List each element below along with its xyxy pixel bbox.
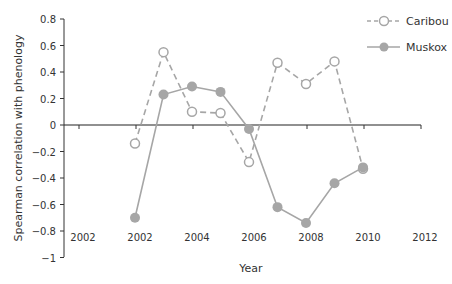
x-axis [64,125,421,129]
x-tick-label: 2006 [241,232,266,243]
y-tick-label: −0.8 [32,226,56,237]
data-point [159,90,169,100]
x-tick-label: 2004 [184,232,209,243]
legend-item-muskox: Muskox [367,41,448,54]
x-tick-label: 2008 [298,232,323,243]
y-tick-label: −0.4 [32,173,56,184]
data-point [330,178,340,188]
data-point [244,124,254,134]
series-muskox [130,82,368,228]
data-point [216,87,226,97]
y-axis-label: Spearman correlation with phenology [12,34,25,241]
filled-circle-marker-icon [380,43,389,52]
y-tick-label: −0.2 [32,147,56,158]
legend-item-caribou: Caribou [367,15,449,28]
x-tick-label: 2002 [127,232,152,243]
data-point [273,202,283,212]
legend-label-caribou: Caribou [406,15,449,28]
legend: Caribou Muskox [367,15,449,54]
data-point [159,48,168,57]
y-tick-label: 0 [50,120,56,131]
data-point [358,162,368,172]
plot-area [130,48,368,228]
data-point [302,79,311,88]
y-tick-label: −1 [41,253,56,264]
data-point [216,109,225,118]
y-axis: 0.80.60.40.20−0.2−0.4−0.6−0.8−1 [32,14,64,264]
x-tick-labels: 2002200220042006200820102012 [70,232,437,243]
x-tick-label: 2002 [70,232,95,243]
y-tick-label: −0.6 [32,200,56,211]
data-point [301,218,311,228]
data-point [245,158,254,167]
y-tick-label: 0.4 [40,67,56,78]
data-point [187,82,197,92]
x-axis-label: Year [238,262,263,275]
open-circle-marker-icon [380,17,389,26]
y-tick-label: 0.8 [40,14,56,25]
data-point [330,57,339,66]
series-caribou [131,48,368,174]
data-point [131,139,140,148]
x-tick-label: 2012 [412,232,437,243]
data-point [273,58,282,67]
y-tick-label: 0.2 [40,94,56,105]
x-tick-label: 2010 [355,232,380,243]
y-tick-label: 0.6 [40,41,56,52]
chart: 0.80.60.40.20−0.2−0.4−0.6−0.8−1 20022002… [0,0,452,284]
data-point [188,107,197,116]
data-point [130,213,140,223]
legend-label-muskox: Muskox [406,41,448,54]
